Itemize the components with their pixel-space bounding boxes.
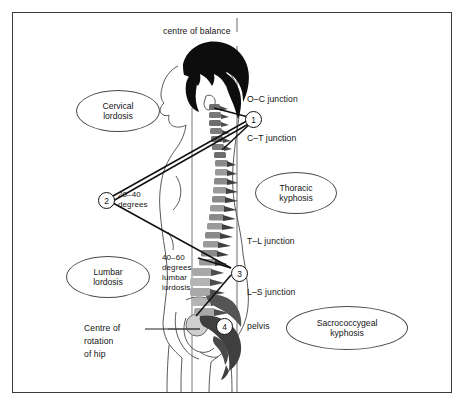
callout-sacrococcygeal-line1: Sacrococcygeal <box>317 318 378 328</box>
label-cervical-angle-line1: 20–40 <box>118 190 141 200</box>
marker-2-number: 2 <box>104 196 109 206</box>
label-cervical-angle-line2: degrees <box>118 200 148 210</box>
label-lumbar-angle-line1: 40–60 <box>162 253 185 263</box>
callout-thoracic-kyphosis: Thoracic kyphosis <box>255 172 337 214</box>
marker-4-number: 4 <box>222 322 227 332</box>
marker-1-number: 1 <box>251 115 256 125</box>
spinal-column <box>190 104 241 380</box>
spine-diagram-illustration <box>0 0 463 410</box>
sacrum-coccyx <box>200 295 242 380</box>
label-pelvis: pelvis <box>247 321 270 332</box>
callout-cervical-line2: lordosis <box>102 111 133 121</box>
label-ct-junction: C–T junction <box>247 133 296 144</box>
marker-3-number: 3 <box>237 269 242 279</box>
callout-sacrococcygeal-line2: kyphosis <box>317 328 378 338</box>
label-lumbar-angle-line2: degrees <box>162 263 192 273</box>
callout-lumbar-lordosis: Lumbar lordosis <box>66 256 150 298</box>
label-lumbar-angle-line4: lordosis <box>162 283 190 293</box>
callout-thoracic-line1: Thoracic <box>279 183 312 193</box>
label-hip-rotation-line1: Centre of <box>84 323 120 334</box>
callout-thoracic-line2: kyphosis <box>279 193 312 203</box>
callout-lumbar-line1: Lumbar <box>93 267 123 277</box>
label-tl-junction: T–L junction <box>247 236 295 247</box>
marker-1-cervical-apex[interactable]: 1 <box>245 111 262 128</box>
label-ls-junction: L–S junction <box>247 287 296 298</box>
label-centre-of-balance: centre of balance <box>163 26 231 37</box>
figure-page: 1 2 3 4 Cervical lordosis Thoracic kypho… <box>0 0 463 410</box>
label-oc-junction: O–C junction <box>247 94 298 105</box>
marker-2-angle-vertex[interactable]: 2 <box>98 192 115 209</box>
callout-cervical-lordosis: Cervical lordosis <box>76 90 160 132</box>
marker-4-pelvis[interactable]: 4 <box>216 318 233 335</box>
marker-3-lumbosacral-apex[interactable]: 3 <box>231 265 248 282</box>
label-lumbar-angle-line3: lumbar <box>162 273 187 283</box>
callout-cervical-line1: Cervical <box>102 101 133 111</box>
callout-sacrococcygeal-kyphosis: Sacrococcygeal kyphosis <box>286 306 408 350</box>
label-hip-rotation-line2: rotation <box>84 336 113 347</box>
callout-lumbar-line2: lordosis <box>93 277 123 287</box>
label-hip-rotation-line3: of hip <box>84 349 106 360</box>
